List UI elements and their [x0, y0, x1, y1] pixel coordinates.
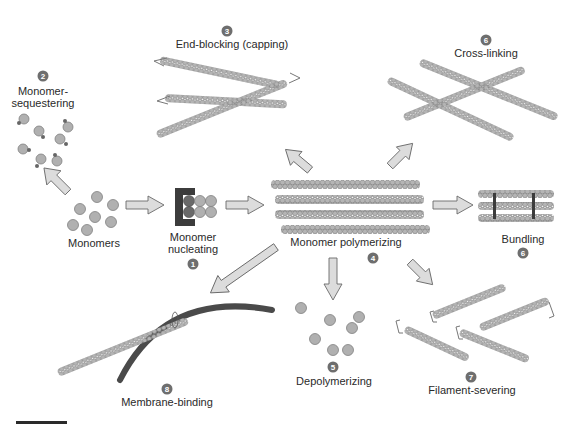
step-label: Bundling: [502, 233, 545, 245]
step-label: Cross-linking: [454, 47, 518, 59]
arrow-to-sequestering: [37, 161, 75, 199]
arrow-to-filament-severing: [404, 256, 439, 291]
actin-filament: [281, 225, 430, 234]
actin-binding-protein-diagram: 2 Monomer- sequestering Monomers: [0, 0, 579, 426]
step-bundling: Bundling 6: [478, 190, 554, 259]
membrane: [120, 306, 272, 380]
step-number: 6: [521, 249, 526, 258]
step-label: Monomer polymerizing: [290, 236, 401, 248]
step-label: Filament-severing: [428, 384, 515, 396]
step-number: 1: [191, 260, 196, 269]
scale-bar: [16, 421, 67, 424]
arrow-to-capping: [280, 143, 316, 177]
actin-filament: [275, 195, 424, 204]
step-label: Monomer-: [18, 85, 68, 97]
step-number: 6: [484, 36, 489, 45]
bundling-protein: [532, 193, 535, 219]
free-monomers: Monomers: [68, 192, 121, 250]
step-number: 5: [331, 363, 336, 372]
arrow-to-polymerizing: [226, 196, 264, 214]
step-label: sequestering: [12, 97, 75, 109]
step-number: 8: [165, 385, 170, 394]
step-number: 3: [225, 27, 230, 36]
arrow-to-nucleating: [126, 196, 164, 214]
step-label: Depolymerizing: [296, 375, 372, 387]
severing-protein: [396, 320, 403, 333]
sequestered-monomers: [17, 114, 73, 168]
actin-filament: [271, 180, 420, 189]
step-monomer-polymerizing: Monomer polymerizing 4: [271, 180, 430, 264]
step-monomer-sequestering: 2 Monomer- sequestering: [12, 71, 75, 169]
step-end-blocking-capping: 3 End-blocking (capping): [154, 26, 300, 139]
step-label: Monomer: [170, 231, 217, 243]
step-number: 2: [41, 72, 46, 81]
actin-filament: [57, 317, 190, 377]
step-membrane-binding: 8 Membrane-binding: [57, 306, 272, 408]
step-number: 4: [371, 254, 376, 263]
actin-filament: [275, 210, 424, 219]
arrow-to-depolymerizing: [324, 258, 342, 300]
step-cross-linking: 6 Cross-linking: [386, 35, 558, 142]
step-label: nucleating: [168, 243, 218, 255]
monomers-label: Monomers: [68, 237, 120, 249]
bundling-protein: [493, 193, 496, 219]
nucleator-protein: [175, 188, 195, 226]
step-depolymerizing: 5 Depolymerizing: [296, 303, 372, 388]
severing-protein: [549, 302, 554, 318]
step-label: End-blocking (capping): [176, 38, 289, 50]
step-number: 7: [469, 373, 474, 382]
step-label: Membrane-binding: [121, 396, 213, 408]
arrow-to-bundling: [433, 196, 473, 214]
step-monomer-nucleating: Monomer nucleating 1: [168, 188, 218, 270]
arrow-to-cross-linking: [384, 137, 419, 172]
capping-protein: [289, 73, 300, 83]
step-filament-severing: 7 Filament-severing: [396, 283, 554, 396]
